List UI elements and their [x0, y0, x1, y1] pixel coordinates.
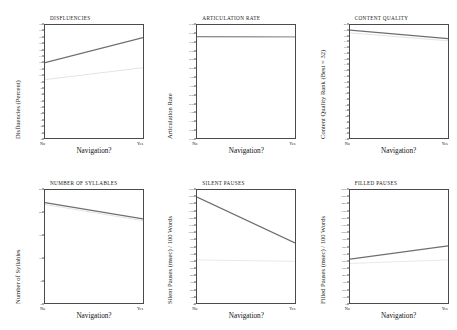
panel-title: FILLED PAUSES: [355, 180, 398, 186]
series-line: [45, 203, 143, 219]
series-line: [350, 246, 448, 259]
panel-title: NUMBER OF SYLLABLES: [50, 180, 117, 186]
series-line: [350, 260, 448, 264]
x-tick-yes: Yes: [137, 141, 143, 146]
panel-title: SILENT PAUSES: [202, 180, 244, 186]
x-tick-no: No: [345, 141, 350, 146]
plot-area: [196, 189, 296, 304]
series-line: [45, 68, 143, 80]
panel-title: CONTENT QUALITY: [355, 15, 409, 21]
y-axis-ticks: 01234567891011121314151617181920: [334, 24, 347, 139]
y-axis-ticks: 0510152025: [29, 189, 42, 304]
y-axis-label: Articulation Rate: [166, 93, 173, 139]
x-axis-label: Navigation?: [349, 147, 449, 155]
series-line: [197, 260, 295, 261]
x-tick-yes: Yes: [289, 141, 295, 146]
plot-area: [196, 24, 296, 139]
y-axis-label: Disfluencies (Percent): [14, 80, 21, 139]
y-axis-label: Content Quality Rank (Best = 32): [319, 50, 326, 139]
x-tick-no: No: [192, 141, 197, 146]
y-axis-label: Silent Pauses (msec) / 100 Words: [166, 216, 173, 304]
x-axis-label: Navigation?: [349, 312, 449, 320]
series-line: [45, 204, 143, 220]
panel-content-quality: CONTENT QUALITY Content Quality Rank (Be…: [305, 0, 457, 165]
panel-articulation-rate: ARTICULATION RATE Articulation Rate 6.50…: [152, 0, 304, 165]
chart-grid: DISFLUENCIES Disfluencies (Percent) 0123…: [0, 0, 457, 330]
y-axis-label: Number of Syllables: [14, 249, 21, 304]
x-tick-no: No: [345, 306, 350, 311]
plot-area: [349, 24, 449, 139]
x-axis-label: Navigation?: [196, 312, 296, 320]
x-tick-yes: Yes: [137, 306, 143, 311]
panel-disfluencies: DISFLUENCIES Disfluencies (Percent) 0123…: [0, 0, 152, 165]
x-axis-label: Navigation?: [44, 147, 144, 155]
y-axis-ticks: 0123456789101112131415161718: [29, 24, 42, 139]
x-tick-yes: Yes: [442, 306, 448, 311]
plot-area: [44, 24, 144, 139]
panel-title: DISFLUENCIES: [50, 15, 91, 21]
plot-area: [349, 189, 449, 304]
x-tick-no: No: [192, 306, 197, 311]
panel-title: ARTICULATION RATE: [202, 15, 260, 21]
x-tick-yes: Yes: [289, 306, 295, 311]
series-line: [45, 38, 143, 63]
panel-silent-pauses: SILENT PAUSES Silent Pauses (msec) / 100…: [152, 165, 304, 330]
series-line: [197, 197, 295, 243]
x-tick-no: No: [40, 306, 45, 311]
y-axis-label: Filled Pauses (msec) / 100 Words: [319, 216, 326, 304]
y-axis-ticks: 6.506.005.505.004.504.003.503.002.502.00…: [181, 24, 194, 139]
x-axis-label: Navigation?: [44, 312, 144, 320]
panel-number-of-syllables: NUMBER OF SYLLABLES Number of Syllables …: [0, 165, 152, 330]
x-axis-label: Navigation?: [196, 147, 296, 155]
x-tick-yes: Yes: [442, 141, 448, 146]
y-axis-ticks: 1600150014001300120011001000900800700600…: [334, 189, 347, 304]
panel-filled-pauses: FILLED PAUSES Filled Pauses (msec) / 100…: [305, 165, 457, 330]
y-axis-ticks: 1600150014001300120011001000900800700600…: [181, 189, 194, 304]
x-tick-no: No: [40, 141, 45, 146]
plot-area: [44, 189, 144, 304]
